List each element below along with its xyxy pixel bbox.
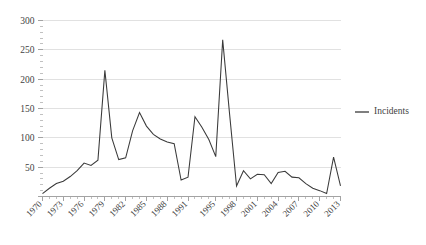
y-axis-label-150: 150 <box>20 104 35 114</box>
legend-label-incidents: Incidents <box>374 106 409 116</box>
y-axis-label-300: 300 <box>20 16 35 26</box>
y-axis-label-200: 200 <box>20 75 35 85</box>
line-chart: 50100150200250300 1970197319761979198219… <box>0 0 426 245</box>
y-axis-label-250: 250 <box>20 45 35 55</box>
y-axis-label-50: 50 <box>25 163 35 173</box>
chart-container: 50100150200250300 1970197319761979198219… <box>0 0 426 245</box>
y-axis-label-100: 100 <box>20 133 35 143</box>
